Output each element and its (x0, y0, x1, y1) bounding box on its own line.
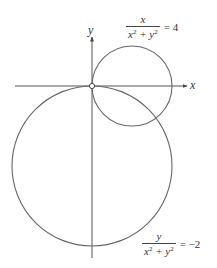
origin-marker (89, 83, 94, 88)
diagram-canvas (0, 0, 217, 268)
equation-rhs: = −2 (180, 238, 201, 250)
equation-denominator: x2 + y2 (126, 26, 160, 40)
equation-label-circle-y: y x2 + y2 = −2 (142, 230, 200, 257)
equation-label-circle-x: x x2 + y2 = 4 (126, 13, 178, 40)
equation-denominator: x2 + y2 (142, 243, 176, 257)
equation-numerator: x (138, 13, 147, 26)
equation-rhs: = 4 (164, 21, 178, 33)
equation-numerator: y (154, 230, 163, 243)
x-axis-label: x (190, 79, 195, 91)
y-axis-label: y (88, 24, 93, 36)
